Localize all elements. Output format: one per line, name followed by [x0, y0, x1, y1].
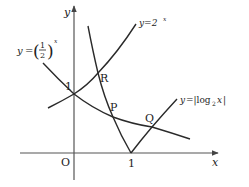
svg-text:=|log: =|log: [186, 95, 211, 106]
svg-text:x: x: [163, 15, 167, 22]
y-axis-label: y: [63, 6, 71, 19]
point-r-label: R: [100, 72, 109, 85]
curve-exp2: [48, 24, 136, 108]
svg-text:(: (: [33, 41, 40, 61]
x-tick-1-label: 1: [128, 157, 135, 170]
point-q-label: Q: [145, 112, 154, 125]
label-exp2: y=2 x: [138, 15, 167, 28]
svg-text:y=2: y=2: [138, 18, 158, 28]
x-axis-label: x: [212, 156, 219, 169]
curve-abslog-right: [131, 99, 177, 153]
svg-text:y: y: [16, 45, 23, 56]
label-exphalf: y = ( 1 2 ) x: [16, 37, 58, 61]
svg-text:): ): [47, 41, 54, 61]
point-p-label: P: [110, 101, 118, 114]
function-graph: y x O 1 1 R P Q y=2 x y = ( 1 2 ) x y =|…: [0, 0, 249, 187]
origin-label: O: [61, 156, 70, 169]
svg-text:1: 1: [40, 41, 45, 50]
svg-text:x: x: [54, 37, 58, 44]
svg-text:x: x: [217, 95, 222, 105]
svg-text:2: 2: [212, 100, 216, 107]
svg-text:2: 2: [40, 51, 45, 60]
svg-text:y: y: [179, 95, 186, 105]
svg-text:|: |: [223, 95, 226, 106]
y-tick-1-label: 1: [65, 80, 72, 93]
label-abslog: y =|log 2 x |: [179, 95, 226, 107]
curve-abslog-left: [88, 26, 131, 153]
